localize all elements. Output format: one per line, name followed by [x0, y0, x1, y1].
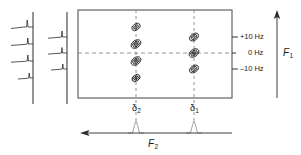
contour-peak — [131, 73, 142, 83]
f1-trace-left — [11, 12, 33, 104]
f2-axis-arrow — [80, 130, 232, 136]
contour-peak — [188, 63, 200, 74]
f1-tick-label-zero: 0 Hz — [248, 49, 263, 57]
f2-shift-label-delta2: δ2 — [132, 104, 141, 113]
f1-trace-right — [48, 12, 67, 104]
nmr-2d-spectrum-figure: +10 Hz 0 Hz –10 Hz F1 δ2 δ1 F2 — [0, 0, 301, 155]
figure-canvas — [0, 0, 301, 155]
f2-projection-peaks — [128, 121, 202, 134]
f1-tick-marks — [232, 37, 238, 69]
contour-peak — [130, 22, 141, 32]
delta1-subscript: 1 — [195, 107, 199, 114]
f1-axis-label-subscript: 1 — [289, 52, 293, 59]
f2-shift-label-delta1: δ1 — [190, 104, 199, 113]
f1-tick-label-plus10: +10 Hz — [240, 33, 264, 41]
f2-axis-label-subscript: 2 — [154, 143, 158, 150]
delta2-subscript: 2 — [137, 107, 141, 114]
f2-axis-label: F2 — [148, 139, 158, 149]
contour-peak — [130, 55, 143, 67]
spectrum-plot-box — [78, 10, 232, 98]
f1-axis-arrow — [274, 10, 280, 98]
f1-tick-label-minus10: –10 Hz — [240, 65, 263, 73]
contour-peak — [130, 38, 143, 50]
f1-axis-label: F1 — [283, 48, 293, 58]
